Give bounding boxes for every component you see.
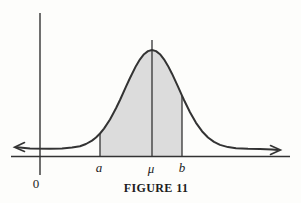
label-a: a (96, 160, 103, 175)
normal-distribution-figure: 0 a μ b FIGURE 11 (0, 0, 301, 203)
label-b: b (179, 160, 186, 175)
label-mu: μ (147, 161, 155, 176)
label-origin: 0 (33, 176, 40, 191)
figure-canvas: 0 a μ b FIGURE 11 (0, 0, 301, 203)
figure-caption: FIGURE 11 (124, 181, 189, 195)
shaded-area (100, 50, 182, 157)
